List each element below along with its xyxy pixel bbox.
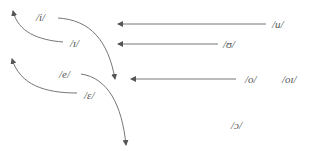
arrows-layer (0, 0, 311, 151)
label-i: /i/ (36, 11, 45, 23)
label-eh: /ɛ/ (84, 89, 94, 101)
label-ih: /ɪ/ (70, 37, 79, 49)
label-open-o: /ɔ/ (231, 119, 242, 131)
label-oi: /oɪ/ (282, 73, 297, 85)
arrow-e-down-right (81, 74, 126, 145)
label-e: /e/ (59, 68, 70, 80)
label-o: /o/ (245, 73, 257, 85)
label-u: /u/ (272, 18, 284, 30)
label-uh: /ʊ/ (223, 38, 235, 50)
vowel-shift-diagram: /i/ /ɪ/ /e/ /ɛ/ /u/ /ʊ/ /o/ /oɪ/ /ɔ/ (0, 0, 311, 151)
